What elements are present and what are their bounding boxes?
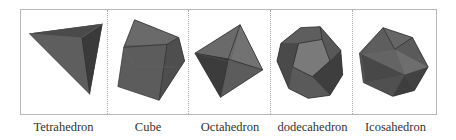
tetrahedron-image (21, 10, 107, 114)
panel-cube (108, 10, 190, 114)
label-cube: Cube (107, 118, 189, 136)
panel-icosahedron (353, 10, 436, 114)
panel-dodecahedron (271, 10, 354, 114)
cube-image (108, 10, 189, 114)
caption-row: Tetrahedron Cube Octahedron dodecahedron… (20, 118, 437, 136)
panel-octahedron (189, 10, 271, 114)
polyhedra-figure (20, 9, 437, 115)
label-tetrahedron: Tetrahedron (20, 118, 107, 136)
dodecahedron-image (271, 10, 353, 114)
octahedron-image (189, 10, 270, 114)
label-icosahedron: Icosahedron (354, 118, 437, 136)
label-dodecahedron: dodecahedron (271, 118, 354, 136)
icosahedron-image (353, 10, 436, 114)
panel-tetrahedron (21, 10, 108, 114)
label-octahedron: Octahedron (189, 118, 271, 136)
